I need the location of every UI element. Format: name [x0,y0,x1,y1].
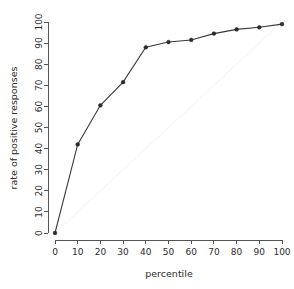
x-tick-label: 30 [117,247,129,257]
data-point-marker [235,27,239,31]
data-point-marker [167,40,171,44]
data-point-marker [53,231,57,235]
y-tick-label: 90 [34,37,44,49]
data-point-marker [257,25,261,29]
data-point-marker [280,22,284,26]
y-tick-label: 60 [34,100,44,112]
y-tick-label: 20 [34,185,44,197]
chart-figure: 0102030405060708090100 01020304050607080… [0,0,294,289]
y-tick-label: 50 [34,122,44,134]
y-tick-label: 30 [34,164,44,176]
x-tick-label: 50 [163,247,175,257]
x-tick-label: 70 [208,247,220,257]
data-point-marker [189,38,193,42]
x-tick-label: 10 [72,247,84,257]
x-tick-label: 90 [254,247,266,257]
y-tick-label: 0 [34,230,44,236]
lift-curve-chart: 0102030405060708090100 01020304050607080… [0,0,294,289]
data-point-marker [212,32,216,36]
x-tick-label: 60 [185,247,197,257]
x-tick-label: 20 [95,247,107,257]
y-axis-title: rate of positive responses [8,67,19,190]
data-point-marker [121,80,125,84]
y-tick-label: 100 [34,13,44,30]
x-tick-label: 100 [273,247,290,257]
y-tick-label: 10 [34,206,44,218]
x-tick-label: 0 [52,247,58,257]
y-tick-label: 40 [34,143,44,155]
y-tick-label: 80 [34,58,44,70]
x-tick-label: 40 [140,247,152,257]
x-tick-label: 80 [231,247,243,257]
y-tick-label: 70 [34,79,44,91]
data-point-marker [76,142,80,146]
data-point-marker [99,103,103,107]
x-axis-title: percentile [145,268,193,279]
data-point-marker [144,45,148,49]
